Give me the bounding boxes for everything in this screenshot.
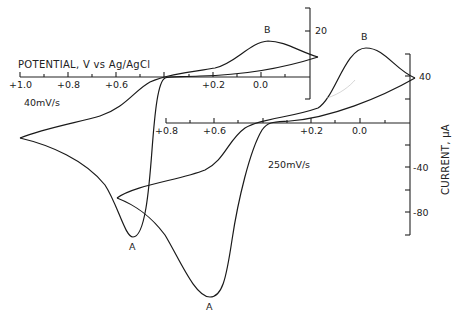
peak-label-b-250: B [361,31,368,42]
tick-label-inner-20: 20 [315,25,327,36]
tick-label-top-0.0: 0.0 [253,79,268,90]
potential-axis-40 [20,72,310,77]
tick-label-top-0.2: +0.2 [202,79,225,90]
tick-label-outer-neg40: -40 [413,162,429,173]
tick-label-outer-neg80: -80 [413,207,429,218]
peak-label-b-40: B [264,24,271,35]
peak-label-a-40: A [129,241,136,252]
scan-artifact-arc [327,80,355,98]
voltammogram-250-return [117,78,415,297]
cyclic-voltammogram-chart: POTENTIAL, V vs Ag/AgCl +1.0 +0.8 +0.6 +… [0,0,455,314]
tick-label-top-0.6: +0.6 [105,79,128,90]
peak-label-a-250: A [206,301,213,312]
tick-label-bottom-0.0: 0.0 [352,125,367,136]
tick-label-top-0.8: +0.8 [57,79,80,90]
tick-label-outer-40: 40 [419,71,431,82]
tick-label-bottom-0.2: +0.2 [300,125,323,136]
tick-label-bottom-0.6: +0.6 [203,125,226,136]
x-axis-title: POTENTIAL, V vs Ag/AgCl [18,59,150,70]
tick-label-top-1.0: +1.0 [9,79,32,90]
y-axis-title: CURRENT, μA [440,124,451,195]
tick-label-bottom-0.8: +0.8 [155,125,178,136]
scan-rate-label-250: 250mV/s [268,159,310,170]
scan-rate-label-40: 40mV/s [24,97,60,108]
potential-axis-250 [166,118,410,123]
